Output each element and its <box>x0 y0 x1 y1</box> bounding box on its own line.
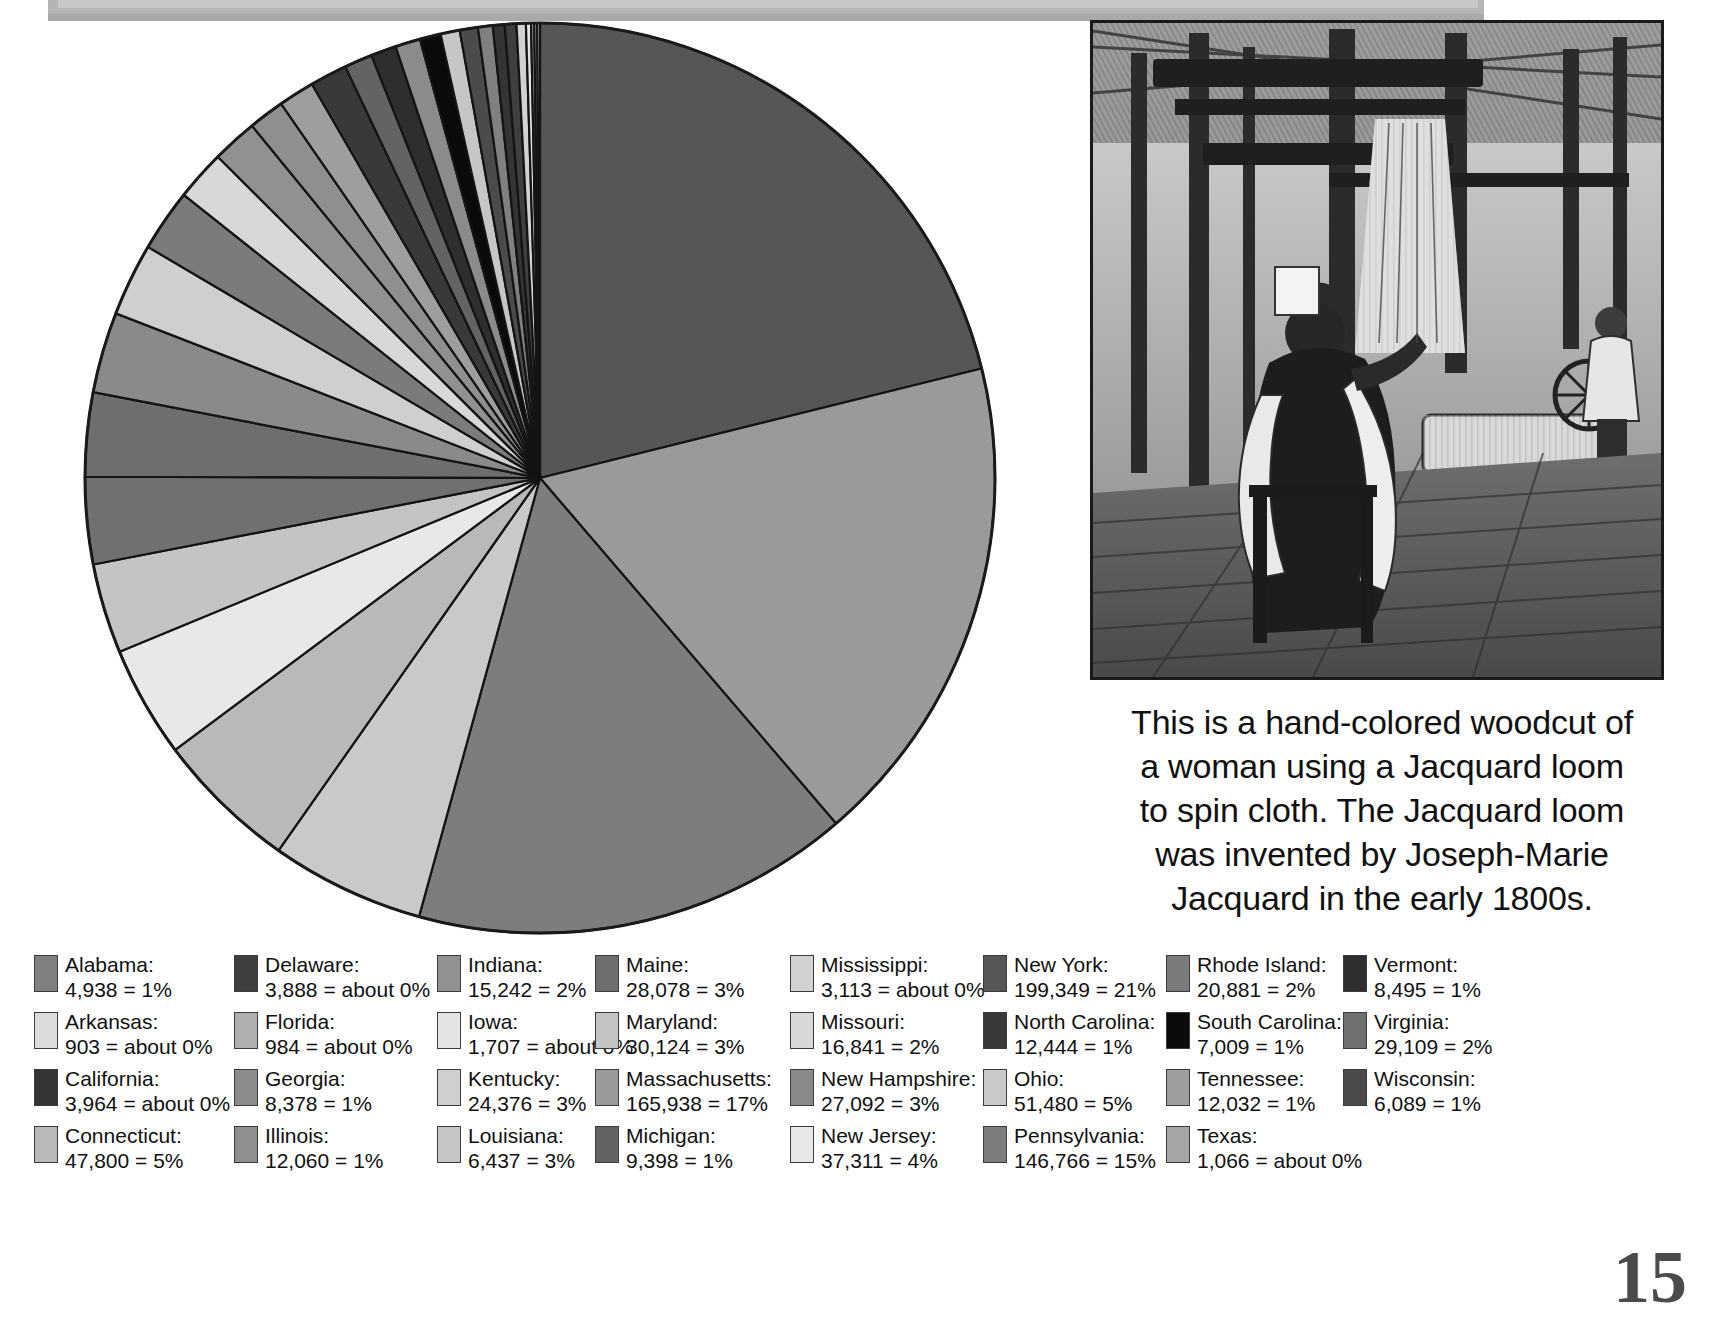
caption-line: Jacquard in the early 1800s. <box>1058 876 1706 920</box>
legend-item-illinois[interactable]: Illinois:12,060 = 1% <box>234 1123 437 1173</box>
legend-item-indiana[interactable]: Indiana:15,242 = 2% <box>437 952 595 1002</box>
legend-label: Alabama:4,938 = 1% <box>65 952 172 1002</box>
legend-state-value: 165,938 = 17% <box>626 1091 772 1116</box>
legend-label: New York:199,349 = 21% <box>1014 952 1156 1002</box>
legend-item-ohio[interactable]: Ohio:51,480 = 5% <box>983 1066 1166 1116</box>
legend-state-value: 12,060 = 1% <box>265 1148 384 1173</box>
caption-line: was invented by Joseph-Marie <box>1058 832 1706 876</box>
legend-item-massachusetts[interactable]: Massachusetts:165,938 = 17% <box>595 1066 790 1116</box>
legend-item-north-carolina[interactable]: North Carolina:12,444 = 1% <box>983 1009 1166 1059</box>
legend-item-mississippi[interactable]: Mississippi:3,113 = about 0% <box>790 952 983 1002</box>
legend-state-value: 37,311 = 4% <box>821 1148 938 1173</box>
legend-item-kentucky[interactable]: Kentucky:24,376 = 3% <box>437 1066 595 1116</box>
legend-item-new-hampshire[interactable]: New Hampshire:27,092 = 3% <box>790 1066 983 1116</box>
legend-item-iowa[interactable]: Iowa:1,707 = about 0% <box>437 1009 595 1059</box>
legend-label: Wisconsin:6,089 = 1% <box>1374 1066 1481 1116</box>
legend-state-name: New York: <box>1014 952 1156 977</box>
legend-item-alabama[interactable]: Alabama:4,938 = 1% <box>34 952 234 1002</box>
legend-state-name: Tennessee: <box>1197 1066 1316 1091</box>
legend-item-pennsylvania[interactable]: Pennsylvania:146,766 = 15% <box>983 1123 1166 1173</box>
legend-item-rhode-island[interactable]: Rhode Island:20,881 = 2% <box>1166 952 1343 1002</box>
legend-color-swatch <box>790 1012 814 1049</box>
legend-state-name: Florida: <box>265 1009 413 1034</box>
legend-color-swatch <box>34 1069 58 1106</box>
legend-label: North Carolina:12,444 = 1% <box>1014 1009 1155 1059</box>
legend-item-tennessee[interactable]: Tennessee:12,032 = 1% <box>1166 1066 1343 1116</box>
legend-color-swatch <box>595 955 619 992</box>
legend-state-value: 24,376 = 3% <box>468 1091 587 1116</box>
legend-state-value: 3,888 = about 0% <box>265 977 430 1002</box>
legend-label: Maine:28,078 = 3% <box>626 952 745 1002</box>
caption-line: This is a hand-colored woodcut of <box>1058 700 1706 744</box>
legend-color-swatch <box>234 1126 258 1163</box>
legend-state-value: 8,495 = 1% <box>1374 977 1481 1002</box>
legend-item-florida[interactable]: Florida:984 = about 0% <box>234 1009 437 1059</box>
legend-label: Kentucky:24,376 = 3% <box>468 1066 587 1116</box>
pie-chart-svg <box>40 18 1000 938</box>
legend-state-value: 6,437 = 3% <box>468 1148 575 1173</box>
legend-state-name: Maine: <box>626 952 745 977</box>
legend-state-name: California: <box>65 1066 230 1091</box>
legend-item-delaware[interactable]: Delaware:3,888 = about 0% <box>234 952 437 1002</box>
legend-state-value: 4,938 = 1% <box>65 977 172 1002</box>
legend-item-maine[interactable]: Maine:28,078 = 3% <box>595 952 790 1002</box>
legend-state-name: Kentucky: <box>468 1066 587 1091</box>
legend-state-value: 28,078 = 3% <box>626 977 745 1002</box>
page-number: 15 <box>1613 1240 1687 1314</box>
legend-item-new-jersey[interactable]: New Jersey:37,311 = 4% <box>790 1123 983 1173</box>
legend-state-value: 903 = about 0% <box>65 1034 213 1059</box>
legend-color-swatch <box>1343 955 1367 992</box>
legend-item-virginia[interactable]: Virginia:29,109 = 2% <box>1343 1009 1523 1059</box>
legend-state-name: Texas: <box>1197 1123 1362 1148</box>
legend-state-name: Virginia: <box>1374 1009 1493 1034</box>
legend-item-georgia[interactable]: Georgia:8,378 = 1% <box>234 1066 437 1116</box>
legend-state-name: Pennsylvania: <box>1014 1123 1156 1148</box>
legend-item-arkansas[interactable]: Arkansas:903 = about 0% <box>34 1009 234 1059</box>
legend-item-california[interactable]: California:3,964 = about 0% <box>34 1066 234 1116</box>
legend-state-name: Ohio: <box>1014 1066 1133 1091</box>
legend-item-wisconsin[interactable]: Wisconsin:6,089 = 1% <box>1343 1066 1523 1116</box>
legend-item-south-carolina[interactable]: South Carolina:7,009 = 1% <box>1166 1009 1343 1059</box>
legend-item-missouri[interactable]: Missouri:16,841 = 2% <box>790 1009 983 1059</box>
legend-color-swatch <box>1166 1069 1190 1106</box>
legend-state-value: 16,841 = 2% <box>821 1034 940 1059</box>
legend-state-value: 1,066 = about 0% <box>1197 1148 1362 1173</box>
legend-label: Massachusetts:165,938 = 17% <box>626 1066 772 1116</box>
legend-state-name: Rhode Island: <box>1197 952 1327 977</box>
legend-color-swatch <box>983 1126 1007 1163</box>
legend-label: South Carolina:7,009 = 1% <box>1197 1009 1342 1059</box>
legend-state-name: Georgia: <box>265 1066 372 1091</box>
legend-state-value: 7,009 = 1% <box>1197 1034 1342 1059</box>
pie-slice-group <box>85 23 995 933</box>
legend-label: Vermont:8,495 = 1% <box>1374 952 1481 1002</box>
legend-item-maryland[interactable]: Maryland:30,124 = 3% <box>595 1009 790 1059</box>
legend-state-value: 51,480 = 5% <box>1014 1091 1133 1116</box>
legend-color-swatch <box>34 955 58 992</box>
legend-row: Alabama:4,938 = 1%Delaware:3,888 = about… <box>34 952 1574 1002</box>
legend-state-name: Illinois: <box>265 1123 384 1148</box>
legend-color-swatch <box>595 1126 619 1163</box>
legend-item-michigan[interactable]: Michigan:9,398 = 1% <box>595 1123 790 1173</box>
legend-state-value: 29,109 = 2% <box>1374 1034 1493 1059</box>
legend-state-value: 20,881 = 2% <box>1197 977 1327 1002</box>
legend-color-swatch <box>1343 1012 1367 1049</box>
legend-state-name: South Carolina: <box>1197 1009 1342 1034</box>
legend-item-louisiana[interactable]: Louisiana:6,437 = 3% <box>437 1123 595 1173</box>
legend-state-value: 146,766 = 15% <box>1014 1148 1156 1173</box>
legend-state-name: Indiana: <box>468 952 587 977</box>
legend-state-name: North Carolina: <box>1014 1009 1155 1034</box>
legend-item-texas[interactable]: Texas:1,066 = about 0% <box>1166 1123 1343 1173</box>
legend-label: Illinois:12,060 = 1% <box>265 1123 384 1173</box>
legend-state-value: 12,444 = 1% <box>1014 1034 1155 1059</box>
legend-label: New Jersey:37,311 = 4% <box>821 1123 938 1173</box>
legend-label: Delaware:3,888 = about 0% <box>265 952 430 1002</box>
legend-item-vermont[interactable]: Vermont:8,495 = 1% <box>1343 952 1523 1002</box>
legend-state-name: Arkansas: <box>65 1009 213 1034</box>
legend-color-swatch <box>790 955 814 992</box>
legend-state-value: 8,378 = 1% <box>265 1091 372 1116</box>
legend-state-value: 30,124 = 3% <box>626 1034 745 1059</box>
legend-color-swatch <box>234 1012 258 1049</box>
legend-item-connecticut[interactable]: Connecticut:47,800 = 5% <box>34 1123 234 1173</box>
legend-item-new-york[interactable]: New York:199,349 = 21% <box>983 952 1166 1002</box>
legend-color-swatch <box>1343 1069 1367 1106</box>
